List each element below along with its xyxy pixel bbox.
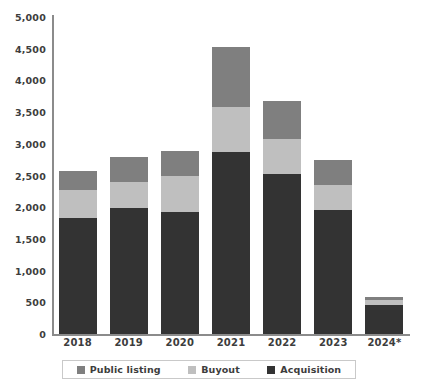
bar-segment-public-listing	[314, 160, 352, 185]
legend-swatch-icon	[267, 366, 275, 374]
chart-root: 05001,0001,5002,0002,5003,0003,5004,0004…	[0, 0, 422, 391]
x-axis-line	[52, 334, 410, 336]
legend-item[interactable]: Buyout	[188, 364, 240, 375]
y-axis-tick-label: 3,500	[15, 107, 46, 118]
bar-stack	[314, 160, 352, 334]
y-axis-labels: 05001,0001,5002,0002,5003,0003,5004,0004…	[0, 0, 46, 391]
bar-segment-buyout	[314, 185, 352, 210]
legend-label: Public listing	[90, 364, 161, 375]
bar-segment-public-listing	[212, 47, 250, 107]
legend-item[interactable]: Public listing	[77, 364, 161, 375]
bar-segment-public-listing	[110, 157, 148, 182]
bar-segment-public-listing	[263, 101, 301, 138]
legend-swatch-icon	[77, 366, 85, 374]
bar-segment-acquisition	[110, 208, 148, 334]
bar-segment-acquisition	[263, 174, 301, 334]
x-axis-tick-label: 2022	[256, 337, 308, 348]
x-axis-tick-label: 2023	[307, 337, 359, 348]
bar-segment-buyout	[110, 182, 148, 208]
y-axis-tick-label: 0	[39, 329, 46, 340]
bar-segment-public-listing	[365, 297, 403, 300]
x-axis-tick-label: 2021	[205, 337, 257, 348]
bar-segment-acquisition	[161, 212, 199, 334]
bar-segment-acquisition	[59, 218, 97, 334]
x-axis-tick-label: 2018	[52, 337, 104, 348]
y-axis-tick-label: 5,000	[15, 12, 46, 23]
bar-stack	[212, 47, 250, 334]
bar-stack	[263, 101, 301, 334]
bar-stack	[365, 297, 403, 334]
y-axis-tick-label: 1,500	[15, 233, 46, 244]
y-axis-tick-label: 1,000	[15, 265, 46, 276]
legend-item[interactable]: Acquisition	[267, 364, 341, 375]
bar-stack	[161, 151, 199, 334]
bar-series-area	[52, 0, 410, 334]
y-axis-tick-label: 500	[26, 297, 46, 308]
legend-label: Buyout	[201, 364, 240, 375]
bar-stack	[110, 157, 148, 334]
chart-legend: Public listingBuyoutAcquisition	[62, 360, 356, 379]
y-axis-tick-label: 4,500	[15, 43, 46, 54]
y-axis-tick-label: 4,000	[15, 75, 46, 86]
bar-segment-acquisition	[212, 152, 250, 334]
x-axis-tick-label: 2019	[103, 337, 155, 348]
bar-segment-buyout	[365, 300, 403, 304]
x-axis-labels: 2018201920202021202220232024*	[52, 337, 410, 355]
legend-swatch-icon	[188, 366, 196, 374]
legend-label: Acquisition	[280, 364, 341, 375]
x-axis-tick-label: 2020	[154, 337, 206, 348]
bar-segment-acquisition	[314, 210, 352, 334]
bar-segment-public-listing	[59, 171, 97, 190]
bar-segment-buyout	[161, 176, 199, 212]
x-axis-tick-label: 2024*	[358, 337, 410, 348]
bar-segment-buyout	[59, 190, 97, 218]
bar-stack	[59, 171, 97, 334]
y-axis-tick-label: 2,000	[15, 202, 46, 213]
bar-segment-acquisition	[365, 305, 403, 334]
bar-segment-buyout	[263, 139, 301, 175]
y-axis-tick-label: 2,500	[15, 170, 46, 181]
bar-segment-public-listing	[161, 151, 199, 176]
bar-segment-buyout	[212, 107, 250, 152]
y-axis-tick-label: 3,000	[15, 138, 46, 149]
